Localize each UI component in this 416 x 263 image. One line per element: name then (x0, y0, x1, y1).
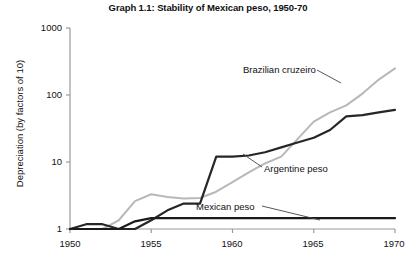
series-label-brazilian-cruzeiro: Brazilian cruzeiro (243, 64, 316, 75)
plot-area (0, 0, 416, 263)
chart-figure: Graph 1.1: Stability of Mexican peso, 19… (0, 0, 416, 263)
series-label-argentine-peso: Argentine peso (264, 163, 328, 174)
series-label-mexican-peso: Mexican peso (196, 201, 255, 212)
leader-line-argentine-peso (243, 154, 262, 167)
leader-line-brazilian-cruzeiro (317, 70, 341, 83)
